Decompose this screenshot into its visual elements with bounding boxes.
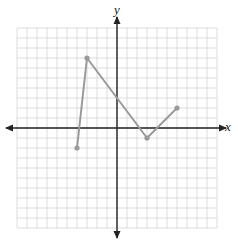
y-axis-down-arrow-icon — [114, 231, 121, 239]
coordinate-plane — [0, 0, 238, 243]
x-axis-label: x — [225, 119, 231, 135]
x-axis-left-arrow-icon — [5, 125, 13, 132]
axes — [5, 16, 227, 239]
data-point — [74, 145, 79, 150]
y-axis-label: y — [114, 2, 120, 18]
data-point — [174, 105, 179, 110]
data-point — [144, 135, 149, 140]
data-point — [84, 55, 89, 60]
